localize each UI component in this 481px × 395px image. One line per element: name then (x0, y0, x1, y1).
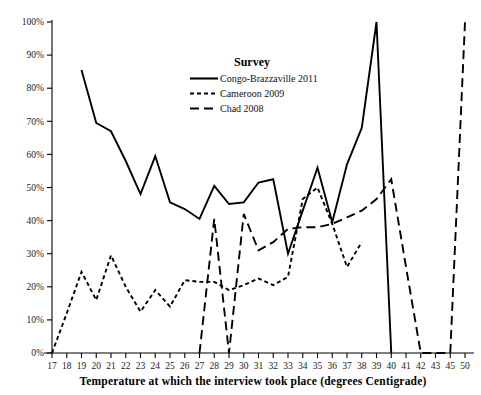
x-tick-label: 31 (254, 361, 264, 371)
y-tick-label: 30% (27, 249, 45, 259)
x-tick-label: 42 (416, 361, 426, 371)
x-tick-label: 29 (224, 361, 234, 371)
x-tick-label: 34 (298, 361, 308, 371)
x-tick-label: 19 (77, 361, 87, 371)
y-tick-label: 20% (27, 282, 45, 292)
x-tick-label: 39 (372, 361, 382, 371)
y-tick-label: 60% (27, 150, 45, 160)
y-tick-label: 10% (27, 315, 45, 325)
x-axis-title: Temperature at which the interview took … (79, 375, 426, 388)
x-tick-label: 40 (387, 361, 397, 371)
y-tick-label: 90% (27, 50, 45, 60)
y-tick-label: 80% (27, 83, 45, 93)
legend-title: Survey (234, 55, 270, 69)
x-tick-label: 27 (195, 361, 205, 371)
x-tick-label: 18 (62, 361, 72, 371)
y-tick-label: 0% (31, 348, 44, 358)
x-tick-group: 1718192021222324252627282930313233343536… (47, 353, 470, 371)
y-axis: 0%10%20%30%40%50%60%70%80%90%100% (22, 17, 52, 358)
x-axis: 1718192021222324252627282930313233343536… (44, 353, 474, 371)
series-line-cameroon-2009 (52, 188, 362, 354)
y-tick-label: 70% (27, 117, 45, 127)
x-tick-label: 28 (210, 361, 220, 371)
x-tick-label: 33 (283, 361, 293, 371)
y-tick-label: 100% (22, 17, 44, 27)
x-tick-label: 50 (460, 361, 470, 371)
x-tick-label: 36 (328, 361, 338, 371)
x-tick-label: 30 (239, 361, 249, 371)
legend-label: Cameroon 2009 (220, 88, 284, 99)
x-tick-label: 32 (269, 361, 279, 371)
x-tick-label: 38 (357, 361, 367, 371)
x-tick-label: 37 (342, 361, 352, 371)
x-tick-label: 23 (136, 361, 146, 371)
chart-legend: SurveyCongo-Brazzaville 2011Cameroon 200… (190, 55, 318, 114)
legend-label: Chad 2008 (220, 103, 264, 114)
x-tick-label: 17 (47, 361, 57, 371)
legend-label: Congo-Brazzaville 2011 (220, 73, 318, 84)
x-tick-label: 43 (431, 361, 441, 371)
y-tick-label: 50% (27, 183, 45, 193)
x-tick-label: 35 (313, 361, 323, 371)
x-tick-label: 24 (151, 361, 161, 371)
x-tick-label: 22 (121, 361, 131, 371)
series-line-congo-brazzaville-2011 (82, 22, 392, 353)
y-tick-group: 0%10%20%30%40%50%60%70%80%90%100% (22, 17, 52, 358)
x-tick-label: 26 (180, 361, 190, 371)
x-tick-label: 25 (165, 361, 175, 371)
line-chart: 0%10%20%30%40%50%60%70%80%90%100% 171819… (0, 0, 481, 395)
y-tick-label: 40% (27, 216, 45, 226)
series-group (52, 22, 465, 353)
series-line-chad-2008 (200, 22, 466, 353)
x-tick-label: 41 (401, 361, 411, 371)
x-tick-label: 45 (446, 361, 456, 371)
x-tick-label: 20 (92, 361, 102, 371)
chart-container: 0%10%20%30%40%50%60%70%80%90%100% 171819… (0, 0, 481, 395)
x-tick-label: 21 (106, 361, 116, 371)
